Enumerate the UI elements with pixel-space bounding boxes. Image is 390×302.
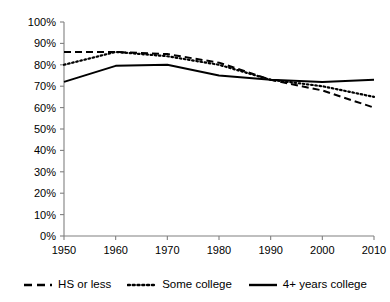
line-chart: 0%10%20%30%40%50%60%70%80%90%100% 195019… [0, 0, 390, 302]
x-axis-tick-labels: 1950196019701980199020002010 [52, 244, 386, 256]
x-tick-label: 1990 [258, 244, 282, 256]
legend-swatch-solid-icon [248, 280, 278, 290]
legend-label-hs-or-less: HS or less [58, 279, 111, 291]
x-tick-label: 1960 [103, 244, 127, 256]
x-tick-label: 1970 [155, 244, 179, 256]
legend-item-hs-or-less: HS or less [23, 279, 111, 291]
y-tick-label: 50% [34, 123, 56, 135]
x-axis-tick-marks [64, 236, 374, 240]
legend-label-4plus-years-college: 4+ years college [283, 279, 367, 291]
series-line-some-college [64, 52, 374, 97]
y-tick-label: 20% [34, 187, 56, 199]
x-tick-label: 1950 [52, 244, 76, 256]
y-axis-tick-labels: 0%10%20%30%40%50%60%70%80%90%100% [28, 16, 56, 242]
y-tick-label: 60% [34, 102, 56, 114]
series-line-hs-or-less [64, 52, 374, 108]
y-tick-label: 30% [34, 166, 56, 178]
y-tick-label: 90% [34, 37, 56, 49]
plot-area: 0%10%20%30%40%50%60%70%80%90%100% 195019… [0, 0, 390, 270]
y-tick-label: 40% [34, 144, 56, 156]
x-tick-label: 2000 [310, 244, 334, 256]
y-tick-label: 10% [34, 209, 56, 221]
legend-swatch-dotted-icon [127, 280, 157, 290]
legend-label-some-college: Some college [162, 279, 232, 291]
y-tick-label: 0% [40, 230, 56, 242]
y-tick-label: 100% [28, 16, 56, 28]
x-tick-label: 2010 [362, 244, 386, 256]
legend-item-some-college: Some college [127, 279, 232, 291]
x-tick-label: 1980 [207, 244, 231, 256]
chart-legend: HS or less Some college 4+ years college [0, 272, 390, 298]
y-tick-label: 80% [34, 59, 56, 71]
legend-swatch-dashed-icon [23, 280, 53, 290]
y-tick-label: 70% [34, 80, 56, 92]
legend-item-4plus-years-college: 4+ years college [248, 279, 367, 291]
series-line-4plus-years-college [64, 65, 374, 82]
y-axis-tick-marks [60, 22, 64, 236]
